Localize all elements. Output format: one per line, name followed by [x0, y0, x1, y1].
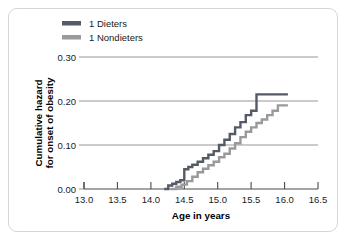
x-tick-label-16-5: 16.5 [309, 194, 328, 205]
x-tick-label-14-0: 14.0 [142, 194, 161, 205]
x-tick-label-13-0: 13.0 [75, 194, 94, 205]
y-axis-title: Cumulative hazard for onset of obesity [33, 77, 55, 168]
x-tick-label-13-5: 13.5 [108, 194, 127, 205]
x-axis-title: Age in years [172, 210, 231, 221]
series-layer [164, 94, 288, 189]
y-tick-dashes [79, 57, 84, 189]
x-tick-label-15-0: 15.0 [208, 194, 227, 205]
x-tick-label-16-0: 16.0 [275, 194, 294, 205]
legend-label-nondieters: 1 Nondieters [89, 32, 143, 43]
y-axis-title-line1: Cumulative hazard [33, 79, 44, 166]
series-line-1-dieters [164, 94, 288, 189]
x-axis-tick-labels: 13.0 13.5 14.0 14.5 15.0 15.5 16.0 16.5 [75, 194, 328, 205]
chart-figure: 0.30 0.20 0.10 0.00 13.0 13.5 14.0 14.5 … [0, 0, 347, 242]
y-tick-label-010: 0.10 [58, 140, 77, 151]
legend-swatch-dieters [62, 21, 81, 26]
y-axis-title-line2: for onset of obesity [44, 77, 55, 168]
series-line-1-nondieters [171, 105, 288, 189]
y-tick-label-030: 0.30 [58, 52, 77, 63]
survival-curve-chart: 0.30 0.20 0.10 0.00 13.0 13.5 14.0 14.5 … [0, 0, 347, 242]
legend-label-dieters: 1 Dieters [89, 18, 127, 29]
x-tick-label-14-5: 14.5 [175, 194, 194, 205]
gridlines [84, 57, 318, 145]
chart-legend: 1 Dieters 1 Nondieters [62, 18, 143, 43]
y-tick-label-020: 0.20 [58, 96, 77, 107]
y-axis-tick-labels: 0.30 0.20 0.10 0.00 [58, 52, 77, 195]
x-axis-ticks [84, 182, 318, 189]
x-tick-label-15-5: 15.5 [242, 194, 261, 205]
legend-swatch-nondieters [62, 35, 81, 40]
y-tick-label-000: 0.00 [58, 184, 77, 195]
